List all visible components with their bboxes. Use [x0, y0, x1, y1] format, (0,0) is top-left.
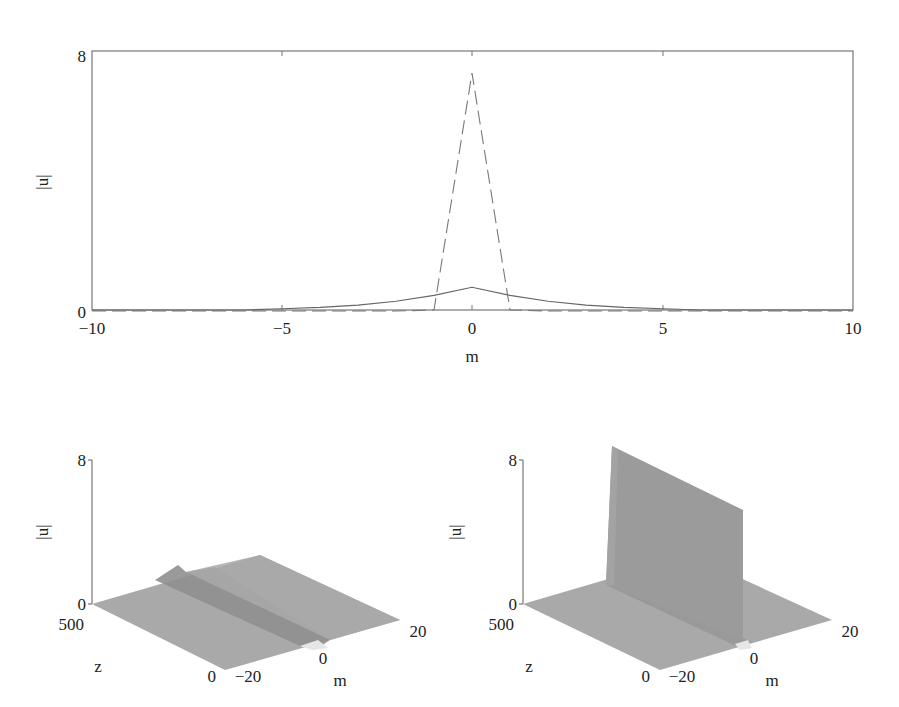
x-tick-right: 20 [842, 622, 859, 641]
z-tick-max: 8 [509, 451, 518, 470]
x-axis-label: m [333, 671, 346, 690]
x-axis-label: m [765, 671, 778, 690]
x-tick-mid: 0 [319, 649, 328, 668]
x-tick-right: 20 [410, 622, 427, 641]
y-axis-label: |u| [33, 174, 52, 189]
y-tick-near: 0 [642, 667, 651, 686]
x-tick-label: −10 [79, 319, 106, 338]
figure: 8 0 −10 −5 0 5 10 m |u| 8 0 500 0 z −20 … [0, 0, 899, 707]
x-tick-left: −20 [669, 667, 696, 686]
y-axis-label: z [525, 657, 533, 676]
z-axis-label: |u| [33, 524, 52, 539]
dashed-series-line [92, 73, 853, 311]
z-tick-max: 8 [78, 451, 87, 470]
bottom-left-surface-plot: 8 0 500 0 z −20 0 20 m |u| [33, 451, 427, 690]
z-tick-min: 0 [78, 595, 87, 614]
plot-frame [92, 51, 853, 310]
top-line-plot: 8 0 −10 −5 0 5 10 m |u| [33, 47, 862, 366]
y-tick-near: 0 [208, 667, 217, 686]
x-tick-label: −5 [273, 319, 291, 338]
bottom-right-surface-plot: 8 0 500 0 z −20 0 20 m |u| [446, 446, 859, 690]
z-tick-min: 0 [509, 595, 518, 614]
x-tick-left: −20 [235, 667, 262, 686]
y-tick-far: 500 [489, 615, 515, 634]
z-axis-label: |u| [446, 524, 465, 539]
x-tick-label: 0 [468, 319, 477, 338]
x-ticks [282, 51, 663, 310]
y-tick-far: 500 [59, 615, 85, 634]
y-tick-max: 8 [78, 47, 87, 66]
x-axis-label: m [465, 347, 478, 366]
x-tick-label: 10 [845, 319, 862, 338]
x-tick-mid: 0 [750, 649, 759, 668]
x-tick-label: 5 [659, 319, 668, 338]
y-axis-label: z [94, 657, 102, 676]
